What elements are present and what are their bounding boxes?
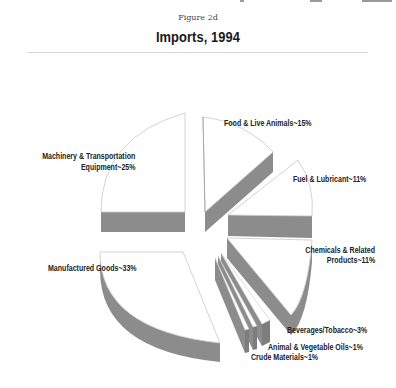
label-chemicals-line2: Products~11% [327,256,375,266]
label-oils: Animal & Vegetable Oils~1% [268,343,363,353]
label-machinery-line1: Machinery & Transportation [42,152,135,162]
label-chemicals-line1: Chemicals & Related [305,246,375,256]
label-food: Food & Live Animals~15% [224,119,312,129]
label-manufactured: Manufactured Goods~33% [48,264,137,274]
label-crude: Crude Materials~1% [251,353,318,363]
label-beverages: Beverages/Tobacco~3% [287,326,367,336]
label-machinery-line2: Equipment~25% [80,163,135,173]
label-fuel: Fuel & Lubricant~11% [293,175,366,185]
